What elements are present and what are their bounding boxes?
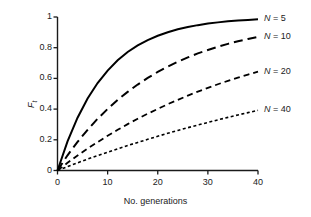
y-axis-tick-label: 0 xyxy=(8,165,52,175)
x-axis-tick-label: 10 xyxy=(88,177,128,187)
x-axis-tick-label: 40 xyxy=(238,177,278,187)
series-line-40 xyxy=(58,110,259,170)
chart-figure: 00.20.40.60.81 010203040 N = 5N = 10N = … xyxy=(0,0,311,217)
series-label-value: = 10 xyxy=(271,31,291,41)
x-axis-tick-label: 30 xyxy=(188,177,228,187)
x-axis-tick-label: 20 xyxy=(138,177,178,187)
series-label-40: N = 40 xyxy=(264,104,291,114)
series-label-10: N = 10 xyxy=(264,31,291,41)
series-label-value: = 40 xyxy=(271,104,291,114)
axes-lines xyxy=(58,17,259,171)
y-axis-title-subscript: t xyxy=(31,101,38,103)
y-axis-title-base: F xyxy=(26,103,36,109)
series-line-10 xyxy=(58,37,259,171)
y-axis-tick-label: 1 xyxy=(8,11,52,21)
series-label-5: N = 5 xyxy=(264,13,286,23)
series-line-5 xyxy=(58,19,259,170)
x-axis-title: No. generations xyxy=(0,196,311,206)
series-line-20 xyxy=(58,72,259,171)
series-label-value: = 20 xyxy=(271,66,291,76)
series-label-20: N = 20 xyxy=(264,66,291,76)
y-axis-title: Ft xyxy=(26,101,38,108)
y-axis-tick-label: 0.8 xyxy=(8,42,52,52)
y-axis-tick-label: 0.2 xyxy=(8,134,52,144)
y-axis-tick-label: 0.6 xyxy=(8,72,52,82)
x-axis-tick-label: 0 xyxy=(38,177,78,187)
data-series-group xyxy=(58,19,259,170)
series-label-value: = 5 xyxy=(271,13,286,23)
